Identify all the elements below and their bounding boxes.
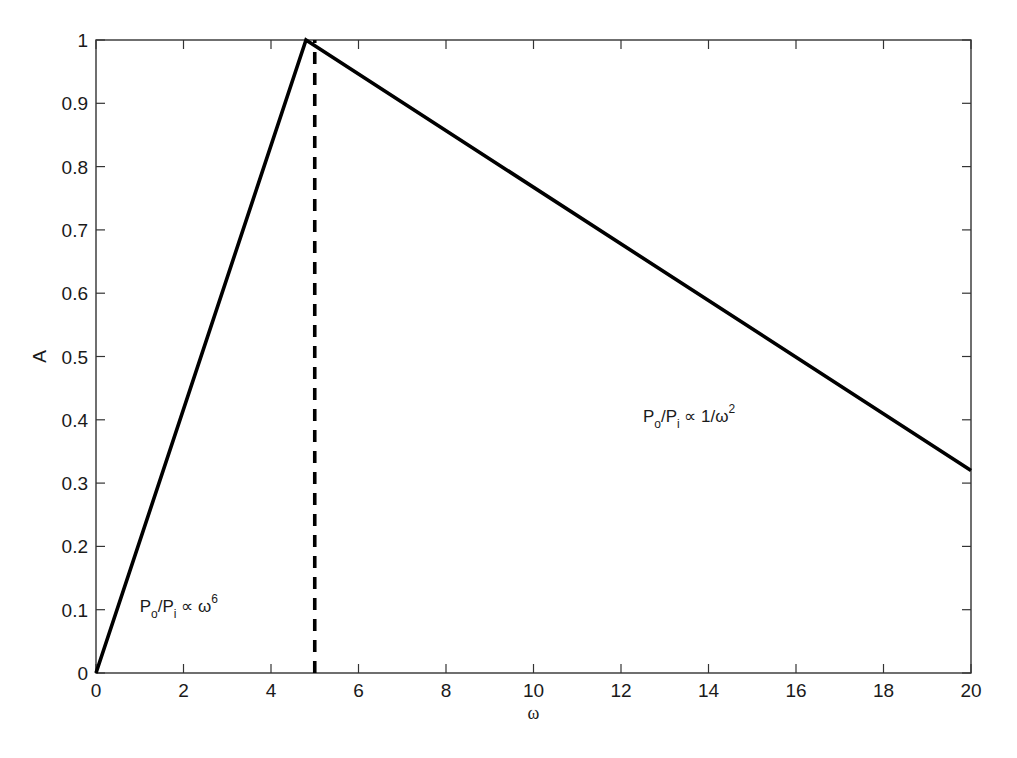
y-tick-label: 0 <box>77 663 88 684</box>
x-axis-ticks: 02468101214161820 <box>91 40 982 701</box>
y-tick-label: 0.8 <box>62 157 88 178</box>
x-tick-label: 6 <box>353 680 364 701</box>
y-tick-label: 1 <box>77 30 88 51</box>
annotation: Po/Pi ∝ ω6 <box>140 592 219 621</box>
y-tick-label: 0.2 <box>62 536 88 557</box>
y-tick-label: 0.3 <box>62 473 88 494</box>
x-tick-label: 8 <box>441 680 452 701</box>
x-tick-label: 14 <box>698 680 720 701</box>
y-tick-label: 0.9 <box>62 93 88 114</box>
x-tick-label: 12 <box>610 680 631 701</box>
x-axis-label: ω <box>528 703 540 723</box>
x-tick-label: 2 <box>178 680 189 701</box>
x-tick-label: 20 <box>960 680 981 701</box>
annotation: Po/Pi ∝ 1/ω2 <box>643 402 736 431</box>
x-tick-label: 4 <box>266 680 277 701</box>
y-tick-label: 0.4 <box>62 410 89 431</box>
plot-frame <box>96 40 971 673</box>
x-tick-label: 16 <box>785 680 806 701</box>
x-tick-label: 10 <box>523 680 544 701</box>
chart-canvas: 02468101214161820 00.10.20.30.40.50.60.7… <box>0 0 1017 758</box>
annotations: Po/Pi ∝ ω6Po/Pi ∝ 1/ω2 <box>140 402 736 621</box>
y-tick-label: 0.1 <box>62 600 88 621</box>
y-axis-ticks: 00.10.20.30.40.50.60.70.80.91 <box>62 30 971 684</box>
x-tick-label: 18 <box>873 680 894 701</box>
y-tick-label: 0.5 <box>62 347 88 368</box>
axes-box <box>96 40 971 673</box>
series-line <box>96 40 971 673</box>
y-tick-label: 0.7 <box>62 220 88 241</box>
y-tick-label: 0.6 <box>62 283 88 304</box>
x-tick-label: 0 <box>91 680 102 701</box>
data-series <box>96 40 971 673</box>
y-axis-label: A <box>29 350 50 363</box>
